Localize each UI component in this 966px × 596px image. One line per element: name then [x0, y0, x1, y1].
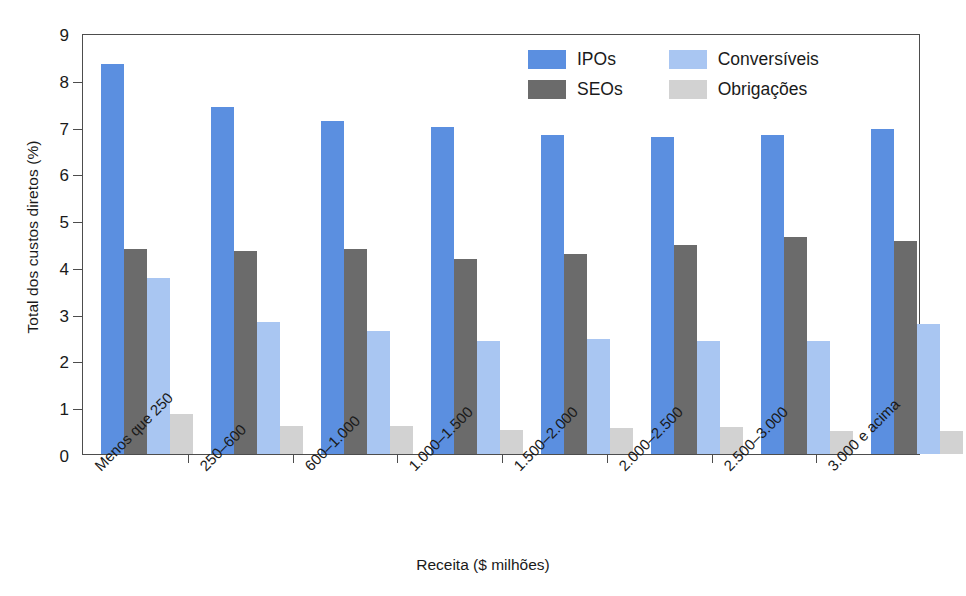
- legend-item[interactable]: SEOs: [528, 79, 623, 100]
- bar[interactable]: [940, 431, 963, 454]
- y-axis-tick-label: 6: [23, 167, 69, 184]
- y-axis-tick-label: 8: [23, 73, 69, 90]
- legend-item[interactable]: Conversíveis: [669, 49, 819, 70]
- y-axis-tick: [73, 175, 83, 176]
- y-axis-tick: [73, 222, 83, 223]
- bar[interactable]: [917, 324, 940, 454]
- legend-label: Obrigações: [718, 79, 808, 100]
- legend-swatch: [669, 50, 707, 69]
- y-axis-tick-label: 2: [23, 354, 69, 371]
- y-axis-tick: [73, 129, 83, 130]
- legend-label: SEOs: [577, 79, 623, 100]
- bar-chart: Total dos custos diretos (%) 0123456789 …: [0, 0, 966, 596]
- x-axis-title: Receita ($ milhões): [0, 556, 966, 574]
- legend-label: Conversíveis: [718, 49, 819, 70]
- y-axis-tick-label: 3: [23, 307, 69, 324]
- legend-swatch: [528, 50, 566, 69]
- y-axis-tick: [73, 82, 83, 83]
- y-axis-tick-label: 1: [23, 401, 69, 418]
- y-axis-tick: [73, 316, 83, 317]
- legend-item[interactable]: IPOs: [528, 49, 623, 70]
- y-axis-tick-label: 4: [23, 260, 69, 277]
- legend-item[interactable]: Obrigações: [669, 79, 819, 100]
- x-axis-category-labels: Menos que 250250–600600–1.0001.000–1.500…: [82, 462, 920, 552]
- y-axis-tick-label: 9: [23, 27, 69, 44]
- chart-legend: IPOsConversíveisSEOsObrigações: [528, 44, 819, 104]
- y-axis-tick-label: 7: [23, 120, 69, 137]
- legend-swatch: [528, 80, 566, 99]
- y-axis-tick: [73, 269, 83, 270]
- legend-swatch: [669, 80, 707, 99]
- y-axis-tick: [73, 409, 83, 410]
- y-axis-tick: [73, 362, 83, 363]
- legend-label: IPOs: [577, 49, 616, 70]
- y-axis-tick-label: 0: [23, 448, 69, 465]
- y-axis-tick-label: 5: [23, 214, 69, 231]
